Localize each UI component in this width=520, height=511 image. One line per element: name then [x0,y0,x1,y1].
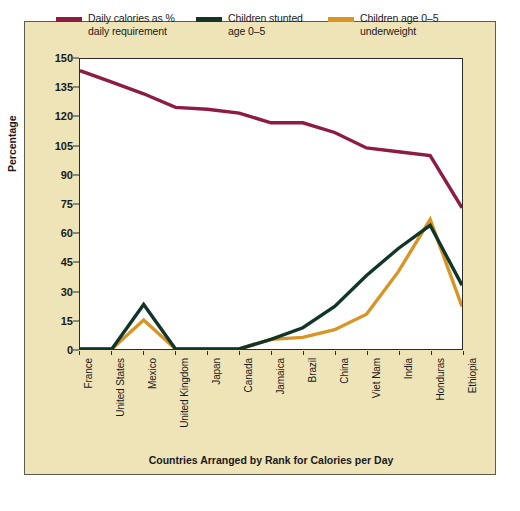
y-tick-label-75: 75 [61,198,73,210]
x-tick-label-china: China [339,358,350,384]
x-tick-mark-11 [431,351,432,355]
series-line-children-stunted [80,225,462,349]
y-tick-label-105: 105 [55,140,73,152]
y-axis-title: Percentage [6,115,18,172]
y-tick-label-150: 150 [55,52,73,64]
x-tick-label-united-kingdom: United Kingdom [179,358,190,428]
x-tick-label-brazil: Brazil [307,358,318,382]
legend-label-children-stunted: Children stunted age 0–5 [228,12,303,37]
x-tick-mark-5 [239,351,240,355]
x-tick-label-ethiopia: Ethiopia [467,358,478,393]
y-tick-label-120: 120 [55,110,73,122]
x-tick-label-mexico: Mexico [147,358,158,389]
x-axis-title: Countries Arranged by Rank for Calories … [79,454,463,466]
series-line-daily-calories [80,71,462,208]
y-axis: 1501351201059075604530150 [0,52,79,362]
x-tick-mark-9 [367,351,368,355]
legend-swatch-daily-calories [56,17,82,22]
x-tick-mark-3 [175,351,176,355]
y-tick-label-60: 60 [61,227,73,239]
x-tick-mark-0 [79,351,80,355]
x-tick-label-united-states: United States [115,358,126,417]
chart-lines [80,59,462,349]
x-tick-label-jamaica: Jamaica [275,358,286,395]
plot-area [79,58,463,350]
x-tick-mark-2 [143,351,144,355]
legend-swatch-children-underweight [328,17,354,22]
legend-item-children-stunted: Children stunted age 0–5 [196,12,314,52]
x-tick-mark-8 [335,351,336,355]
legend-label-children-underweight: Children age 0–5 underweight [360,12,438,37]
x-tick-mark-4 [207,351,208,355]
y-tick-label-90: 90 [61,169,73,181]
legend-item-daily-calories: Daily calories as % daily requirement [56,12,182,52]
x-tick-label-honduras: Honduras [435,358,446,401]
legend-label-daily-calories: Daily calories as % daily requirement [88,12,175,37]
x-tick-label-canada: Canada [243,358,254,392]
x-tick-label-viet-nam: Viet Nam [371,358,382,398]
x-tick-label-japan: Japan [211,358,222,385]
chart-figure: Daily calories as % daily requirement Ch… [0,0,520,511]
legend-swatch-children-stunted [196,17,222,22]
series-line-children-underweight [80,219,462,349]
x-axis: FranceUnited StatesMexicoUnited KingdomJ… [79,351,463,446]
chart-legend: Daily calories as % daily requirement Ch… [56,12,456,52]
x-tick-mark-6 [271,351,272,355]
y-tick-label-15: 15 [61,315,73,327]
x-tick-mark-10 [399,351,400,355]
x-tick-mark-1 [111,351,112,355]
y-tick-label-135: 135 [55,81,73,93]
legend-item-children-underweight: Children age 0–5 underweight [328,12,446,52]
x-tick-mark-7 [303,351,304,355]
y-tick-label-45: 45 [61,256,73,268]
y-tick-label-30: 30 [61,286,73,298]
x-tick-mark-12 [463,351,464,355]
x-tick-label-india: India [403,358,414,379]
x-tick-label-france: France [83,358,94,389]
